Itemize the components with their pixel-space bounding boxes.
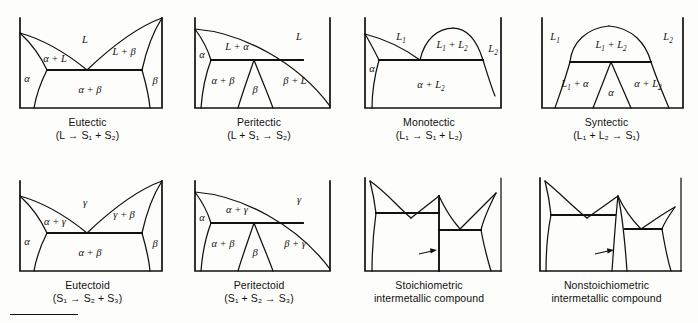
axes-frame [365,18,501,108]
liquidus-left [20,33,87,70]
gamma-boundary [195,192,330,269]
peritectoid-plot: γ α + γ α α + β β β + γ [175,163,343,281]
liquidus-right-2 [460,193,496,229]
caption-syntectic-name: Syntectic [585,116,629,128]
solidus-right [481,193,496,230]
nonstoichiometric-plot [515,163,698,281]
label-alpha: α [199,49,205,60]
peritectic-plot: L L + α α α + β β β + L [175,0,343,118]
label-alpha-plus-gamma: α + γ [226,204,249,215]
compound-left-boundary [612,196,618,271]
label-alpha: α [608,87,614,98]
compound-annotation-arrow [419,248,437,254]
label-alpha: α [24,236,30,247]
label-L: L [295,31,302,42]
label-alpha-plus-beta: α + β [211,238,235,249]
solvus-beta [142,233,150,271]
label-alpha: α [369,63,375,74]
caption-stoichiometric-line2: intermetallic compound [343,292,515,305]
solvus-alpha [34,233,47,271]
solvus-alpha [201,60,211,108]
liquidus-right-1 [411,196,439,218]
axes-frame [365,178,501,271]
label-beta: β [251,84,258,95]
compound-annotation-arrow [595,248,614,254]
caption-eutectic: Eutectic (L → S₁ + S₂) [0,116,175,142]
caption-stoichiometric-line1: Stoichiometric [395,279,462,291]
liquidus-right-2 [641,207,675,229]
upper-boundary-right [87,181,162,233]
solvus-beta [142,70,150,108]
solidus-alpha [545,181,551,215]
liquidus [195,29,330,106]
caption-eutectoid-name: Eutectoid [65,279,110,291]
caption-peritectic-name: Peritectic [237,116,281,128]
diagram-stoichiometric: Stoichiometric intermetallic compound [343,163,515,323]
solvus-right [481,230,491,271]
label-beta: β [251,247,258,258]
label-alpha-plus-L2: α + L2 [634,78,662,92]
caption-peritectic: Peritectic (L + S₁ → S₂) [175,116,343,142]
caption-peritectoid-reaction: (S₁ + S₂ → S₃) [175,292,343,305]
caption-monotectic-reaction: (L₁ → S₁ + L₂) [343,129,515,142]
label-L: L [81,34,88,45]
label-beta: β [151,75,158,86]
label-gamma: γ [297,194,302,205]
label-alpha-plus-beta: α + β [78,247,102,258]
diagram-eutectic: L α + L L + β α β α + β Eutectic (L → S₁… [0,0,175,160]
label-L2: L2 [487,43,498,57]
label-L1-plus-L2: L1 + L2 [594,39,627,53]
label-L1-plus-alpha: L1 + α [560,78,589,92]
caption-eutectic-name: Eutectic [68,116,106,128]
diagram-syntectic: L1 L1 + L2 L2 L1 + α α α + L2 Syntectic … [515,0,698,160]
label-alpha: α [24,73,30,84]
eutectoid-plot: γ α + γ γ + β α β α + β [0,163,175,281]
label-beta-plus-L: β + L [282,75,307,86]
monotectic-plot: L1 L1 + L2 L2 α α + L2 [343,0,515,118]
caption-eutectic-reaction: (L → S₁ + S₂) [0,129,175,142]
caption-stoichiometric: Stoichiometric intermetallic compound [343,279,515,305]
stoichiometric-plot [343,163,515,281]
eutectic-plot: L α + L L + β α β α + β [0,0,175,118]
caption-monotectic: Monotectic (L₁ → S₁ + L₂) [343,116,515,142]
caption-nonstoichiometric-line1: Nonstoichiometric [564,279,649,291]
caption-syntectic-reaction: (L₁ + L₂ → S₁) [515,129,698,142]
label-alpha-plus-beta: α + β [78,84,102,95]
caption-peritectoid: Peritectoid (S₁ + S₂ → S₃) [175,279,343,305]
label-alpha: α [199,212,205,223]
solvus-alpha [546,215,551,271]
caption-eutectoid-reaction: (S₁ → S₂ + S₃) [0,292,175,305]
diagram-peritectic: L L + α α α + β β β + L Peritectic (L + … [175,0,343,160]
upper-boundary-left [20,196,87,233]
caption-peritectoid-name: Peritectoid [234,279,285,291]
caption-monotectic-name: Monotectic [403,116,455,128]
solvus-alpha [34,70,47,108]
label-alpha-plus-L: α + L [43,53,67,64]
label-beta: β [151,238,158,249]
liquidus-right [87,18,162,70]
label-L1-plus-L2: L1 + L2 [435,39,468,53]
liquidus-left-2 [439,196,460,229]
label-alpha-plus-beta: α + β [211,75,235,86]
solidus-left [20,33,47,70]
caption-eutectoid: Eutectoid (S₁ → S₂ + S₃) [0,279,175,305]
alpha-right-boundary [611,62,631,108]
syntectic-plot: L1 L1 + L2 L2 L1 + α α α + L2 [515,0,698,118]
label-alpha-plus-L2: α + L2 [417,79,445,93]
label-gamma: γ [83,197,88,208]
compound-right-boundary [618,196,627,271]
solvus-alpha [372,213,376,271]
label-L-plus-beta: L + β [111,46,136,57]
label-alpha-plus-gamma: α + γ [44,216,67,227]
footer-rule [10,314,78,315]
solvus-alpha [201,223,211,271]
axes-frame [540,178,681,271]
diagram-nonstoichiometric: Nonstoichiometric intermetallic compound [515,163,698,323]
caption-syntectic: Syntectic (L₁ + L₂ → S₁) [515,116,698,142]
diagram-monotectic: L1 L1 + L2 L2 α α + L2 Monotectic (L₁ → … [343,0,515,160]
label-gamma-plus-beta: γ + β [113,209,135,220]
solidus-alpha [370,181,376,213]
alpha-solvus-upper [20,196,47,233]
diagram-peritectoid: γ α + γ α α + β β β + γ Peritectoid (S₁ … [175,163,343,323]
label-L1: L1 [549,31,559,45]
